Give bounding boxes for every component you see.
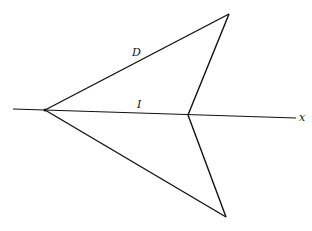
left-vertex-dot <box>44 109 47 112</box>
diagram-canvas: D I x <box>0 0 312 231</box>
arrowhead-diagram: D I x <box>0 0 312 231</box>
label-d: D <box>131 46 141 59</box>
edge-bottom-left <box>45 110 226 217</box>
label-i: I <box>136 98 142 111</box>
label-x-axis: x <box>299 111 306 124</box>
edge-middle-bottom <box>188 115 226 217</box>
edge-top-middle <box>188 14 229 115</box>
edge-left-top <box>45 14 229 110</box>
